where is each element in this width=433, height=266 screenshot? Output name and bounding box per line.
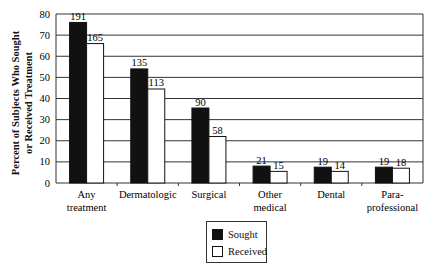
y-axis-label-line-2: or Received Treatment	[22, 13, 35, 193]
legend-label: Sought	[228, 229, 258, 240]
bar-sought	[70, 22, 87, 183]
y-tick-label: 60	[40, 51, 51, 62]
bar-received	[270, 171, 287, 183]
x-category-label: professional	[367, 202, 418, 213]
bar-sought	[192, 108, 209, 183]
bar-value-label: 113	[149, 77, 164, 88]
bar-value-label: 18	[396, 157, 407, 168]
y-tick-label: 0	[45, 178, 50, 189]
x-category-label: Surgical	[192, 189, 227, 200]
bar-value-label: 15	[273, 160, 284, 171]
x-category-label: Any	[78, 189, 97, 200]
bar-value-label: 19	[379, 156, 390, 167]
y-tick-label: 70	[40, 30, 51, 41]
x-category-label: Dermatologic	[119, 189, 177, 200]
y-tick-label: 80	[40, 9, 51, 20]
x-category-label: Para-	[381, 189, 404, 200]
bar-value-label: 14	[335, 160, 346, 171]
bar-value-label: 165	[87, 32, 103, 43]
y-tick-label: 30	[40, 114, 51, 125]
bar-value-label: 191	[70, 11, 86, 22]
x-category-label: Dental	[317, 189, 345, 200]
y-tick-label: 20	[40, 135, 51, 146]
y-axis-label-line-1: Percent of Subjects Who Sought	[9, 13, 22, 193]
bar-sought	[131, 69, 148, 183]
x-category-label: treatment	[67, 202, 107, 213]
y-tick-label: 40	[40, 93, 51, 104]
bar-value-label: 21	[256, 155, 267, 166]
bar-received	[209, 137, 226, 183]
x-category-label: Other	[258, 189, 282, 200]
y-tick-label: 50	[40, 72, 51, 83]
sought-swatch-icon	[212, 229, 223, 240]
bar-sought	[253, 166, 270, 183]
bar-received	[87, 44, 104, 183]
legend-label: Received	[228, 246, 267, 257]
x-category-label: medical	[253, 202, 286, 213]
legend-item-received: Received	[212, 245, 267, 257]
y-tick-label: 10	[40, 156, 51, 167]
y-axis-label: Percent of Subjects Who Sought or Receiv…	[9, 13, 35, 193]
bar-value-label: 58	[212, 125, 223, 136]
bar-value-label: 135	[131, 57, 147, 68]
bar-chart: 01020304050607080191165Anytreatment13511…	[0, 0, 433, 266]
bar-sought	[314, 167, 331, 183]
bar-received	[392, 168, 409, 183]
bar-received	[331, 171, 348, 183]
bar-received	[148, 89, 165, 183]
bar-value-label: 19	[318, 156, 329, 167]
legend: Sought Received	[206, 221, 267, 263]
bar-sought	[375, 167, 392, 183]
legend-item-sought: Sought	[212, 228, 258, 240]
bar-value-label: 90	[195, 97, 206, 108]
received-swatch-icon	[212, 246, 223, 257]
